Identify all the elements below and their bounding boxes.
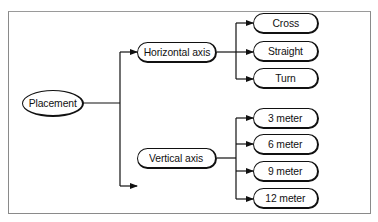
node-label: Vertical axis xyxy=(149,152,203,164)
node-9-meter: 9 meter xyxy=(253,161,319,182)
node-label: 6 meter xyxy=(268,138,302,150)
node-turn: Turn xyxy=(253,68,319,89)
node-vertical-axis: Vertical axis xyxy=(137,148,217,169)
node-label: Placement xyxy=(28,97,76,109)
node-12-meter: 12 meter xyxy=(253,188,319,209)
node-label: Turn xyxy=(275,72,296,84)
node-label: 12 meter xyxy=(265,192,305,204)
node-straight: Straight xyxy=(253,41,319,62)
node-6-meter: 6 meter xyxy=(253,134,319,155)
node-label: Straight xyxy=(268,45,303,57)
node-cross: Cross xyxy=(253,13,319,34)
node-horizontal-axis: Horizontal axis xyxy=(137,42,217,63)
node-3-meter: 3 meter xyxy=(253,108,319,129)
node-label: 3 meter xyxy=(268,112,302,124)
node-label: Horizontal axis xyxy=(143,46,210,58)
node-label: 9 meter xyxy=(268,165,302,177)
node-placement: Placement xyxy=(22,90,84,117)
node-label: Cross xyxy=(272,17,299,29)
